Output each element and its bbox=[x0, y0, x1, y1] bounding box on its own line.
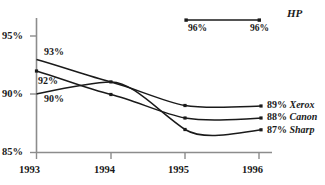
series-end-value-sharp: 87% bbox=[267, 124, 287, 135]
series-label-hp: HP bbox=[287, 8, 302, 19]
series-point-canon-1995 bbox=[183, 116, 186, 119]
series-value-hp-1995: 96% bbox=[188, 24, 207, 34]
series-start-label-sharp: 90% bbox=[44, 94, 64, 104]
series-point-xerox-1995 bbox=[183, 104, 186, 107]
series-end-value-canon: 88% bbox=[267, 111, 287, 122]
y-axis-label-90: 90% bbox=[2, 89, 23, 100]
series-point-xerox-1996 bbox=[259, 104, 262, 107]
series-point-hp-1996 bbox=[258, 18, 261, 21]
series-point-canon-1993 bbox=[35, 69, 38, 72]
y-axis-label-85: 85% bbox=[2, 147, 23, 158]
series-point-canon-1994 bbox=[109, 93, 112, 96]
x-axis-label-1996: 1996 bbox=[242, 165, 263, 176]
series-point-hp-1995 bbox=[184, 18, 187, 21]
line-chart: 95% 90% 85% 1993 1994 1995 1996 93% 92% … bbox=[0, 0, 325, 185]
x-axis-label-1995: 1995 bbox=[168, 165, 189, 176]
series-line-canon bbox=[37, 71, 262, 120]
series-value-hp-1996: 96% bbox=[250, 24, 269, 34]
x-axis-label-1993: 1993 bbox=[19, 165, 40, 176]
series-end-value-xerox: 89% bbox=[267, 99, 287, 110]
y-axis-label-95: 95% bbox=[2, 31, 23, 42]
series-point-sharp-1996 bbox=[259, 128, 262, 131]
x-axis-label-1994: 1994 bbox=[94, 165, 115, 176]
series-end-label-xerox: 89% Xerox bbox=[267, 100, 315, 110]
series-end-label-canon: 88% Canon bbox=[267, 112, 317, 122]
series-end-name-sharp: Sharp bbox=[290, 124, 315, 135]
series-start-label-canon: 92% bbox=[38, 76, 58, 86]
series-end-label-sharp: 87% Sharp bbox=[267, 125, 315, 135]
series-line-sharp bbox=[37, 82, 262, 136]
series-point-sharp-1995 bbox=[183, 128, 186, 131]
series-point-canon-1996 bbox=[259, 116, 262, 119]
series-start-label-xerox: 93% bbox=[44, 47, 64, 57]
series-end-name-canon: Canon bbox=[290, 111, 318, 122]
series-end-name-xerox: Xerox bbox=[290, 99, 315, 110]
